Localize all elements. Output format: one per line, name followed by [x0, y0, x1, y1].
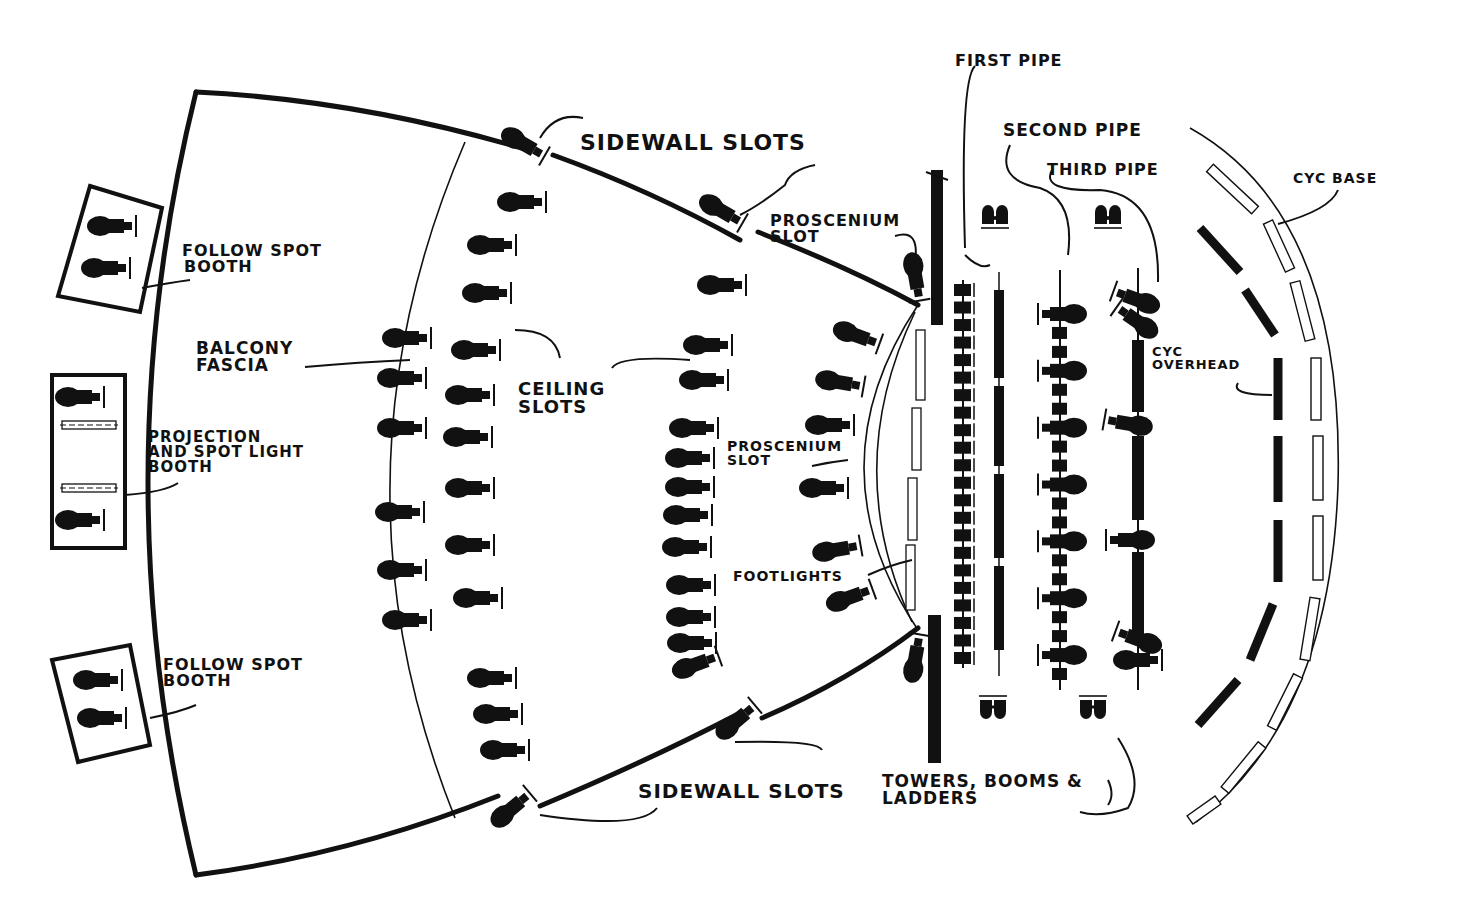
spotlight-fixture-icon — [467, 234, 516, 256]
spotlight-fixture-icon — [480, 739, 529, 761]
spotlight-fixture-icon — [799, 477, 848, 499]
spotlight-fixture-icon — [810, 535, 862, 565]
lighting-plan-diagram: FIRST PIPESECOND PIPETHIRD PIPECYC BASES… — [0, 0, 1463, 924]
diagram-labels: FIRST PIPESECOND PIPETHIRD PIPECYC BASES… — [148, 51, 1377, 808]
spotlight-fixture-icon — [1038, 303, 1087, 325]
label-projection-booth: PROJECTIONAND SPOT LIGHTBOOTH — [148, 428, 304, 476]
spotlight-fixture-icon — [813, 367, 865, 397]
spotlight-fixture-icon — [667, 632, 716, 654]
booth-follow-spot-booth-bottom — [52, 645, 150, 762]
label-footlights: FOOTLIGHTS — [733, 568, 843, 584]
spotlight-fixture-icon — [805, 414, 854, 436]
spotlight-fixture-icon — [665, 476, 714, 498]
tower-icon — [1079, 696, 1107, 719]
spotlight-fixture-icon — [377, 367, 426, 389]
footlights-trough — [906, 330, 925, 610]
spotlight-fixture-icon — [663, 504, 712, 526]
spotlight-fixture-icon — [695, 189, 748, 233]
spotlight-fixture-icon — [443, 426, 492, 448]
label-ceiling-slots: CEILINGSLOTS — [518, 378, 605, 417]
cyc-overhead — [1198, 228, 1278, 725]
spotlight-fixture-icon — [377, 559, 426, 581]
label-balcony-fascia: BALCONYFASCIA — [196, 338, 293, 375]
stage-pipes — [954, 268, 1165, 690]
tower-icon — [981, 205, 1009, 228]
spotlight-fixture-icon — [462, 282, 511, 304]
ceiling-slot-fixtures-2 — [662, 274, 746, 683]
label-cyc-base: CYC BASE — [1293, 170, 1377, 186]
spotlight-fixture-icon — [453, 587, 502, 609]
spotlight-fixture-icon — [1106, 529, 1155, 551]
spotlight-fixture-icon — [1102, 409, 1154, 439]
spotlight-fixture-icon — [666, 574, 715, 596]
spotlight-fixture-icon — [445, 477, 494, 499]
spotlight-fixture-icon — [445, 384, 494, 406]
spotlight-fixture-icon — [451, 339, 500, 361]
spotlight-fixture-icon — [1038, 417, 1087, 439]
second-pipe — [1038, 270, 1087, 690]
tower-icon — [1094, 205, 1122, 228]
first-pipe — [954, 280, 974, 668]
booths — [52, 186, 162, 762]
label-sidewall-slots-top: SIDEWALL SLOTS — [580, 130, 806, 155]
spotlight-fixture-icon — [497, 191, 546, 213]
spotlight-fixture-icon — [669, 417, 718, 439]
spotlight-fixture-icon — [823, 579, 877, 616]
spotlight-fixture-icon — [710, 697, 762, 745]
spotlight-fixture-icon — [1038, 530, 1087, 552]
label-follow-spot-booth-bottom: FOLLOW SPOTBOOTH — [163, 655, 303, 690]
spotlight-fixture-icon — [697, 274, 746, 296]
label-third-pipe: THIRD PIPE — [1047, 160, 1159, 179]
proscenium-wall — [926, 170, 948, 763]
label-towers-booms-ladders: TOWERS, BOOMS &LADDERS — [882, 771, 1083, 808]
spotlight-fixture-icon — [1038, 587, 1087, 609]
spotlight-fixture-icon — [666, 606, 715, 628]
spotlight-fixture-icon — [467, 667, 516, 689]
spotlight-fixture-icon — [665, 447, 714, 469]
spotlight-fixture-icon — [662, 536, 711, 558]
label-second-pipe: SECOND PIPE — [1003, 120, 1142, 140]
spotlight-fixture-icon — [382, 609, 431, 631]
spotlight-fixture-icon — [830, 317, 884, 354]
label-sidewall-slots-bottom: SIDEWALL SLOTS — [638, 779, 845, 803]
booth-follow-spot-booth-top — [58, 186, 162, 312]
spotlight-fixture-icon — [1038, 474, 1087, 496]
spotlight-fixture-icon — [1038, 360, 1087, 382]
label-cyc-overhead: CYCOVERHEAD — [1152, 344, 1240, 372]
label-follow-spot-booth-top: FOLLOW SPOTBOOTH — [182, 241, 322, 276]
tower-icon — [979, 696, 1007, 719]
border-light-pipe — [994, 272, 1004, 676]
ceiling-slot-fixtures — [443, 191, 546, 761]
label-first-pipe: FIRST PIPE — [955, 51, 1063, 70]
spotlight-fixture-icon — [375, 501, 424, 523]
spotlight-fixture-icon — [377, 417, 426, 439]
spotlight-fixture-icon — [473, 703, 522, 725]
spotlight-fixture-icon — [445, 534, 494, 556]
third-pipe — [1102, 268, 1165, 690]
spotlight-fixture-icon — [1038, 644, 1087, 666]
balcony-fixtures — [375, 327, 431, 631]
booth-projection-booth — [52, 375, 125, 548]
spotlight-fixture-icon — [683, 334, 732, 356]
label-proscenium-slot-top: PROSCENIUMSLOT — [770, 211, 900, 246]
spotlight-fixture-icon — [485, 785, 537, 833]
spotlight-fixture-icon — [679, 369, 728, 391]
